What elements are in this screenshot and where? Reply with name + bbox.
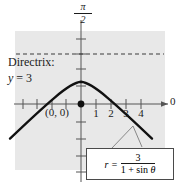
x-tick-label-4: 4 bbox=[135, 107, 147, 119]
polar-conic-figure: π 2 Directrix: y = 3 (0, 0) 1 2 3 4 0 r … bbox=[0, 0, 182, 185]
equation-numerator: 3 bbox=[121, 153, 156, 165]
directrix-title: Directrix: bbox=[8, 56, 55, 68]
zero-direction-label: 0 bbox=[170, 96, 176, 107]
origin-label: (0, 0) bbox=[45, 107, 69, 118]
directrix-equation: y = 3 bbox=[8, 72, 32, 84]
x-tick-label-2: 2 bbox=[105, 107, 117, 119]
polar-axis-label-denominator: 2 bbox=[74, 14, 92, 25]
origin-point bbox=[78, 101, 85, 108]
equation-left-hand-side: r = bbox=[105, 159, 118, 170]
equation-denominator-text: 1 + sin bbox=[121, 164, 151, 175]
x-tick-label-1: 1 bbox=[90, 107, 102, 119]
directrix-equation-operator: = bbox=[13, 71, 26, 85]
equation-content: r = 3 1 + sin θ bbox=[87, 149, 173, 179]
polar-axis-label-numerator: π bbox=[74, 2, 92, 14]
equation-fraction: 3 1 + sin θ bbox=[121, 153, 156, 176]
x-tick-label-3: 3 bbox=[120, 107, 132, 119]
directrix-equation-value: 3 bbox=[26, 71, 32, 85]
equation-denominator: 1 + sin θ bbox=[121, 164, 156, 176]
equation-callout-box: r = 3 1 + sin θ bbox=[86, 148, 174, 180]
polar-axis-label: π 2 bbox=[74, 2, 92, 25]
equation-theta-symbol: θ bbox=[151, 164, 156, 175]
